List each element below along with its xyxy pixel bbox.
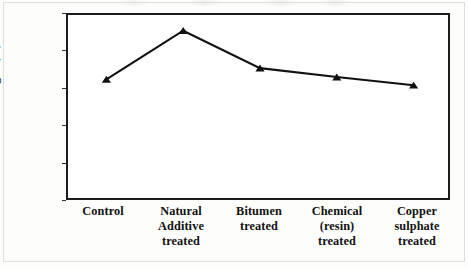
data-point-marker-1 <box>179 27 188 34</box>
plot-area <box>66 13 450 200</box>
x-tick-label-control: Control <box>62 204 144 219</box>
y-axis-title: Tensile strength (lb) <box>0 23 7 173</box>
x-tick-label-bitumen: Bitumen treated <box>218 204 300 234</box>
y-tick-mark-0 <box>62 200 66 201</box>
scan-artifact-top <box>120 0 350 6</box>
series-line <box>68 15 452 202</box>
x-tick-label-chemical-resin: Chemical (resin) treated <box>296 204 378 249</box>
scanned-figure: Tensile strength (lb) 250 200 150 100 50… <box>0 0 468 269</box>
x-tick-label-natural-additive: Natural Additive treated <box>140 204 222 249</box>
x-tick-label-copper-sulphate: Copper sulphate treated <box>376 204 458 249</box>
scan-artifact-bottom <box>3 261 465 262</box>
series-polyline <box>106 31 413 86</box>
